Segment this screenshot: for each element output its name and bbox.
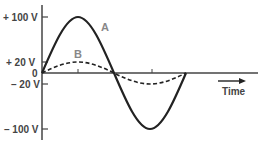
label-p100: + 100 V bbox=[3, 12, 38, 23]
label-time: Time bbox=[222, 86, 246, 97]
label-curve-b: B bbox=[74, 48, 82, 60]
label-m100: – 100 V bbox=[4, 124, 39, 135]
label-zero: 0 bbox=[32, 68, 38, 79]
label-m20: – 20 V bbox=[11, 79, 40, 90]
label-curve-a: A bbox=[101, 21, 109, 33]
arrow-head-icon bbox=[239, 78, 246, 84]
label-p20: + 20 V bbox=[6, 57, 36, 68]
sine-wave-diagram: + 100 V + 20 V 0 – 20 V – 100 V A B Time bbox=[0, 0, 263, 147]
